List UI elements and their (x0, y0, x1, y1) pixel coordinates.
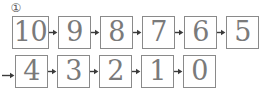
chain-cell[interactable]: 8 (100, 16, 133, 49)
arrow-right-icon (174, 66, 183, 77)
chain-cell[interactable]: 5 (226, 16, 259, 49)
chain-cell-value: 1 (149, 57, 166, 84)
arrow-right-icon (91, 27, 100, 38)
arrow-right-icon (90, 66, 99, 77)
arrow-right-icon (217, 27, 226, 38)
chain-cell-value: 3 (65, 57, 82, 84)
chain-cell[interactable]: 1 (141, 55, 174, 88)
diagram-canvas: ① 10 9 8 7 6 5 (0, 0, 272, 92)
arrow-right-icon (132, 66, 141, 77)
chain-cell-value: 10 (14, 18, 47, 45)
chain-row-1: 10 9 8 7 6 5 (12, 15, 259, 49)
chain-cell-value: 0 (191, 57, 208, 84)
chain-cell[interactable]: 0 (183, 55, 216, 88)
arrow-right-icon (48, 66, 57, 77)
chain-cell[interactable]: 6 (184, 16, 217, 49)
arrow-right-icon (133, 27, 142, 38)
chain-cell-value: 8 (108, 18, 125, 45)
chain-cell-value: 5 (234, 18, 251, 45)
chain-cell[interactable]: 4 (15, 55, 48, 88)
chain-cell[interactable]: 9 (58, 16, 91, 49)
arrow-right-icon (2, 66, 15, 77)
chain-cell-value: 7 (150, 18, 167, 45)
step-number-marker: ① (9, 1, 23, 15)
chain-row-2: 4 3 2 1 0 (2, 54, 216, 88)
chain-cell[interactable]: 10 (12, 16, 49, 49)
chain-cell[interactable]: 2 (99, 55, 132, 88)
chain-cell-value: 6 (192, 18, 209, 45)
chain-cell-value: 2 (107, 57, 124, 84)
arrow-right-icon (175, 27, 184, 38)
chain-cell[interactable]: 7 (142, 16, 175, 49)
chain-cell-value: 9 (66, 18, 83, 45)
arrow-right-icon (49, 27, 58, 38)
chain-cell[interactable]: 3 (57, 55, 90, 88)
chain-cell-value: 4 (23, 57, 40, 84)
